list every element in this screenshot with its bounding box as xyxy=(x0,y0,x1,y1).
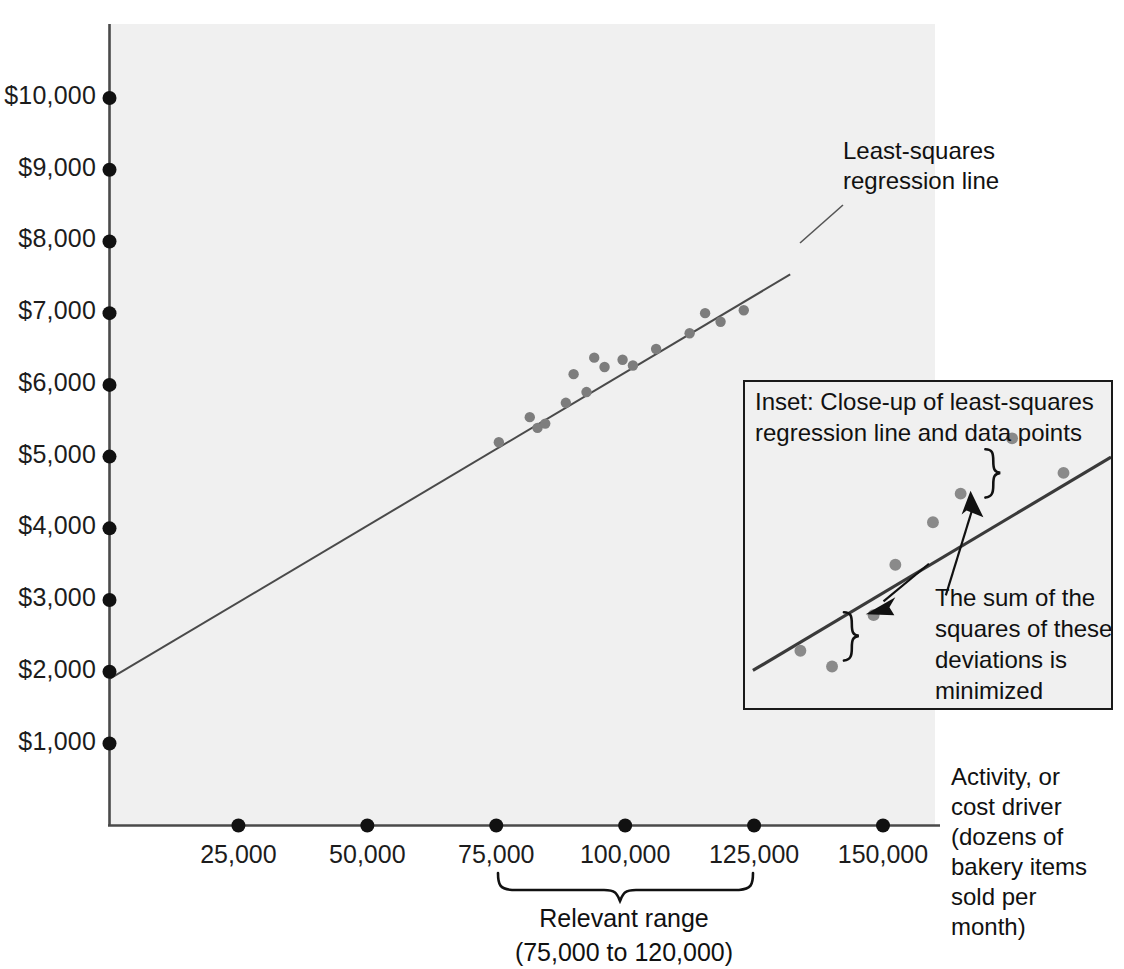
data-point xyxy=(525,412,535,422)
y-axis-tick-dot xyxy=(103,306,117,320)
y-axis-tick-text: $7,000 xyxy=(0,296,96,325)
y-axis-tick-label: $10,000 xyxy=(0,81,96,110)
lower-deviation-brace xyxy=(844,612,859,660)
y-axis-tick-dot xyxy=(103,91,117,105)
inset-title: Inset: Close-up of least-squares regress… xyxy=(755,386,1105,448)
y-axis-tick-dot xyxy=(103,163,117,177)
inset-data-point xyxy=(927,516,939,528)
y-axis-tick-text: $8,000 xyxy=(0,224,96,253)
inset-data-point xyxy=(1058,467,1070,479)
y-axis-tick-label: $6,000 xyxy=(0,368,96,397)
data-point xyxy=(700,308,710,318)
y-axis-tick-text: $10,000 xyxy=(0,81,96,110)
data-point xyxy=(684,328,694,338)
y-axis-tick-dot xyxy=(103,737,117,751)
inset-data-point xyxy=(889,559,901,571)
y-axis-tick-text: $4,000 xyxy=(0,511,96,540)
y-axis-tick-dot xyxy=(103,450,117,464)
y-axis-tick-label: $9,000 xyxy=(0,153,96,182)
relevant-range-caption: Relevant range (75,000 to 120,000) xyxy=(414,901,834,969)
regression-line-callout: Least-squares regression line xyxy=(843,136,1073,196)
data-point xyxy=(715,317,725,327)
data-point xyxy=(589,352,599,362)
inset-data-point xyxy=(955,488,967,500)
data-point xyxy=(617,355,627,365)
x-axis-tick-dot xyxy=(876,819,890,833)
x-axis-tick-dot xyxy=(747,819,761,833)
data-point xyxy=(599,362,609,372)
y-axis-tick-label: $3,000 xyxy=(0,583,96,612)
upper-deviation-brace xyxy=(985,449,1000,497)
y-axis-tick-text: $9,000 xyxy=(0,153,96,182)
y-axis-tick-text: $6,000 xyxy=(0,368,96,397)
y-axis-tick-text: $5,000 xyxy=(0,440,96,469)
inset-data-point xyxy=(826,661,838,673)
x-axis-tick-dot xyxy=(489,819,503,833)
x-axis-caption: Activity, or cost driver (dozens of bake… xyxy=(951,762,1121,942)
x-axis-tick-label: 150,000 xyxy=(838,840,928,869)
x-axis-tick-dot xyxy=(618,819,632,833)
y-axis-tick-label: $8,000 xyxy=(0,224,96,253)
y-axis-tick-dot xyxy=(103,378,117,392)
data-point xyxy=(540,418,550,428)
y-axis-tick-dot xyxy=(103,665,117,679)
x-axis-tick-label: 125,000 xyxy=(709,840,799,869)
relevant-range-brace xyxy=(498,873,753,901)
y-axis-tick-label: $1,000 xyxy=(0,727,96,756)
x-axis-tick-label: 75,000 xyxy=(458,840,534,869)
y-axis-tick-dot xyxy=(103,593,117,607)
x-axis-tick-dot xyxy=(231,819,245,833)
data-point xyxy=(651,344,661,354)
inset-note: The sum of the squares of these deviatio… xyxy=(935,582,1113,706)
y-axis-tick-label: $5,000 xyxy=(0,440,96,469)
y-axis-tick-text: $2,000 xyxy=(0,655,96,684)
y-axis-tick-label: $2,000 xyxy=(0,655,96,684)
y-axis-tick-label: $7,000 xyxy=(0,296,96,325)
y-axis-tick-label: $4,000 xyxy=(0,511,96,540)
data-point xyxy=(581,387,591,397)
x-axis-tick-label: 25,000 xyxy=(200,840,276,869)
data-point xyxy=(739,305,749,315)
x-axis-tick-dot xyxy=(360,819,374,833)
y-axis-tick-dot xyxy=(103,521,117,535)
inset-data-point xyxy=(794,645,806,657)
lower-callout-arrow-shaft xyxy=(883,564,929,602)
data-point xyxy=(494,437,504,447)
data-point xyxy=(628,360,638,370)
x-axis-tick-label: 100,000 xyxy=(580,840,670,869)
inset-panel: Inset: Close-up of least-squares regress… xyxy=(743,380,1113,710)
y-axis-tick-text: $3,000 xyxy=(0,583,96,612)
y-axis-tick-text: $1,000 xyxy=(0,727,96,756)
y-axis-tick-dot xyxy=(103,234,117,248)
data-point xyxy=(561,398,571,408)
data-point xyxy=(568,369,578,379)
x-axis-tick-label: 50,000 xyxy=(329,840,405,869)
